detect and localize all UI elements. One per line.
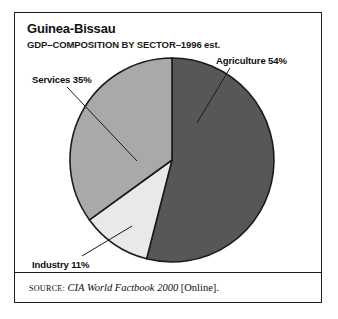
source-work-title: CIA World Factbook 2000 xyxy=(68,282,179,293)
chart-figure: Guinea-Bissau GDP–COMPOSITION BY SECTOR–… xyxy=(14,12,322,303)
source-suffix-label: [Online]. xyxy=(181,282,219,293)
source-prefix-label: SOURCE: xyxy=(29,284,65,293)
source-note: SOURCE: CIA World Factbook 2000 [Online]… xyxy=(29,282,219,293)
pie-label-services: Services 35% xyxy=(32,74,92,85)
pie-chart-plot-area: Agriculture 54% Services 35% Industry 11… xyxy=(15,13,322,273)
source-divider xyxy=(15,272,322,273)
pie-chart-svg xyxy=(15,13,322,273)
pie-label-industry: Industry 11% xyxy=(32,259,89,270)
pie-label-agriculture: Agriculture 54% xyxy=(216,55,287,66)
